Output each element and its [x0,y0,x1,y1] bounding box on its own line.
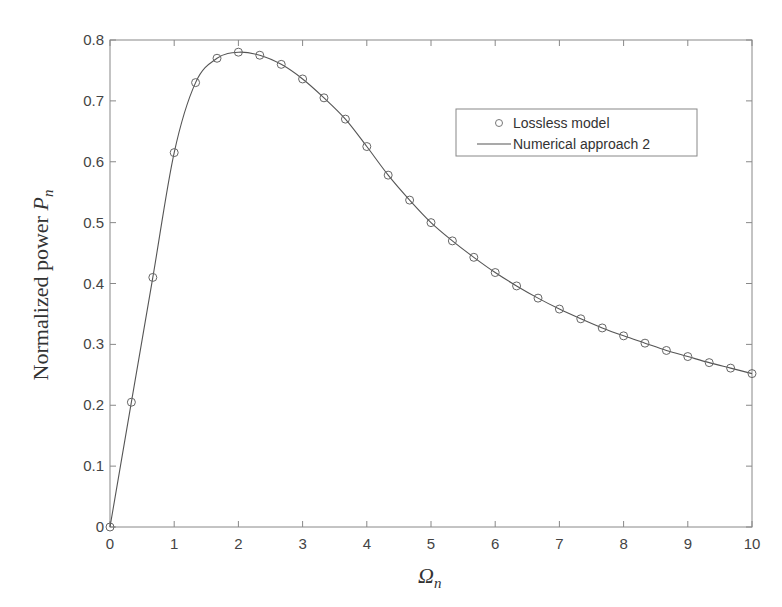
y-tick-label: 0.2 [83,396,104,413]
x-axis-title: Ωn [418,563,441,591]
x-tick-label: 8 [619,535,627,552]
y-tick-label: 0.6 [83,153,104,170]
x-tick-label: 9 [684,535,692,552]
y-axis-title-text: Normalized power [28,211,53,381]
y-axis-title-subscript: n [40,190,56,198]
x-tick-label: 6 [491,535,499,552]
x-tick-label: 4 [363,535,371,552]
x-tick-label: 3 [298,535,306,552]
y-tick-label: 0 [96,518,104,535]
x-tick-label: 5 [427,535,435,552]
y-tick-label: 0.1 [83,457,104,474]
x-axis-title-symbol: Ω [418,563,434,588]
y-tick-label: 0.4 [83,275,104,292]
y-tick-label: 0.5 [83,214,104,231]
y-tick-label: 0.3 [83,335,104,352]
x-tick-label: 1 [170,535,178,552]
y-tick-label: 0.8 [83,31,104,48]
legend-label-lossless-model: Lossless model [513,115,610,131]
y-tick-label: 0.7 [83,92,104,109]
x-tick-label: 0 [106,535,114,552]
x-tick-label: 2 [234,535,242,552]
x-tick-label: 7 [555,535,563,552]
x-tick-label: 10 [744,535,761,552]
y-axis-title: Normalized power Pn [28,190,56,381]
y-axis-title-variable: P [28,197,53,211]
chart-canvas: 012345678910 00.10.20.30.40.50.60.70.8 L… [0,0,782,607]
legend-label-numerical-approach-2: Numerical approach 2 [513,136,650,152]
x-axis-title-subscript: n [434,575,442,591]
legend: Lossless model Numerical approach 2 [456,109,697,156]
